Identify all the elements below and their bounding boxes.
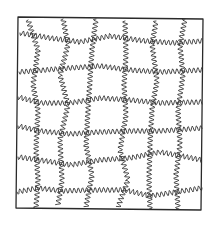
wavy-horizontal-line-2 <box>19 64 202 75</box>
wavy-vertical-line-5 <box>147 21 159 209</box>
sketch-canvas <box>0 0 213 225</box>
wavy-horizontal-line-4 <box>18 124 202 136</box>
wavy-horizontal-line-5 <box>18 150 202 167</box>
wavy-horizontal-line-6 <box>17 186 202 198</box>
wavy-vertical-line-4 <box>116 21 129 207</box>
wavy-horizontal-line-3 <box>18 95 202 105</box>
wavy-horizontal-lines <box>17 31 202 198</box>
wavy-vertical-lines <box>26 19 187 209</box>
wavy-vertical-line-6 <box>174 19 187 209</box>
wavy-vertical-line-1 <box>26 20 41 208</box>
wavy-vertical-line-3 <box>84 19 98 207</box>
sketch-frame <box>16 17 203 210</box>
wavy-horizontal-line-1 <box>20 31 202 45</box>
wavy-vertical-line-2 <box>56 19 71 205</box>
